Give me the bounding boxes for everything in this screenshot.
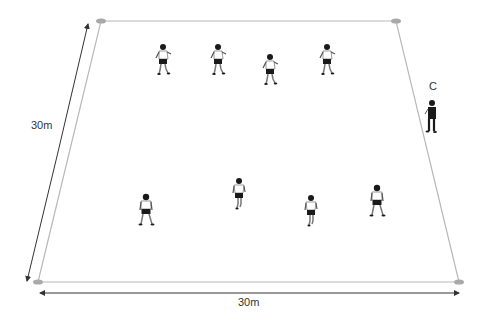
side-dimension-arrow-up [58, 24, 88, 152]
player-figure-icon [305, 195, 317, 227]
dimension-arrows [27, 24, 459, 293]
drill-diagram: 30m 30m C [0, 0, 490, 323]
coach-label: C [429, 80, 437, 92]
coach-figure-icon [425, 100, 437, 133]
player-figure-icon [156, 44, 171, 75]
side-dimension-label: 30m [31, 119, 52, 131]
pitch-boundary [38, 21, 459, 282]
pitch-canvas [0, 0, 490, 323]
bottom-dimension-label: 30m [238, 296, 259, 308]
player-figure-icon [370, 185, 386, 217]
players [139, 44, 386, 227]
player-figure-icon [211, 44, 226, 75]
cone-marker-top-left-icon [96, 18, 106, 23]
coach [425, 100, 437, 133]
cone-marker-bottom-left-icon [33, 279, 43, 284]
pitch [33, 18, 464, 284]
player-figure-icon [263, 54, 278, 85]
cone-marker-bottom-right-icon [454, 279, 464, 284]
player-figure-icon [233, 178, 245, 210]
cone-marker-top-right-icon [391, 18, 401, 23]
player-figure-icon [139, 194, 155, 226]
player-figure-icon [320, 44, 335, 75]
